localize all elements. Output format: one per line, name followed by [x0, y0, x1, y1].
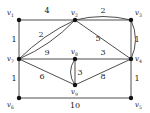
vertex-subscript-v3: 3	[139, 13, 142, 18]
vertex-subscript-v1: 1	[11, 13, 14, 18]
vertex-v6	[17, 96, 21, 100]
edge-weight-v1-v7: 1	[11, 35, 16, 44]
vertex-label-v6: v6	[7, 101, 14, 110]
edge-weight-v7-v8: 9	[44, 48, 49, 57]
edge-layer	[19, 17, 136, 99]
vertex-subscript-v9: 9	[75, 92, 78, 97]
edge-weight-v6-v5: 10	[70, 101, 80, 110]
vertex-subscript-v7: 7	[11, 59, 14, 64]
edge-weight-v2-v3: 2	[100, 6, 105, 15]
edge-v7-v9	[19, 59, 75, 85]
vertex-v1	[17, 18, 21, 22]
graph-canvas: v1v2v3v4v5v6v7v8v9 421251931638110	[0, 0, 150, 113]
edge-weight-v2-v4: 5	[95, 34, 100, 43]
vertex-v3	[129, 18, 133, 22]
vertex-subscript-v4: 4	[139, 59, 142, 64]
vertex-v9	[73, 83, 77, 87]
edge-weight-v1-v2: 4	[44, 6, 49, 15]
vertex-label-v4: v4	[135, 55, 142, 64]
vertex-label-v9: v9	[71, 88, 78, 97]
vertex-label-v8: v8	[71, 48, 78, 57]
edge-weight-v3-v4: 1	[134, 35, 139, 44]
vertex-subscript-v6: 6	[11, 105, 14, 110]
vertex-v4	[129, 57, 133, 61]
edge-weight-v4-v5: 1	[134, 74, 139, 83]
vertex-v8	[73, 57, 77, 61]
edge-weight-v2-v7: 2	[38, 30, 43, 39]
vertex-subscript-v5: 5	[139, 105, 142, 110]
vertex-label-v5: v5	[135, 101, 142, 110]
edge-v8-v9	[71, 59, 76, 85]
vertex-label-v2: v2	[71, 9, 78, 18]
edge-weight-v7-v6: 1	[11, 74, 16, 83]
edge-weight-v8-v4: 3	[100, 48, 105, 57]
vertex-label-v3: v3	[135, 9, 142, 18]
vertex-label-v7: v7	[7, 55, 14, 64]
edge-weight-v8-v9: 3	[77, 68, 82, 77]
vertex-subscript-v8: 8	[75, 52, 78, 57]
edge-weight-v9-v4: 8	[100, 72, 105, 81]
vertex-v7	[17, 57, 21, 61]
weighted-multigraph-figure: v1v2v3v4v5v6v7v8v9 421251931638110	[0, 0, 150, 113]
edge-v2-v3	[75, 17, 131, 21]
vertex-subscript-v2: 2	[75, 13, 78, 18]
vertex-v2	[73, 18, 77, 22]
vertex-v5	[129, 96, 133, 100]
vertex-label-v1: v1	[7, 9, 14, 18]
edge-weight-v7-v9: 6	[39, 72, 44, 81]
